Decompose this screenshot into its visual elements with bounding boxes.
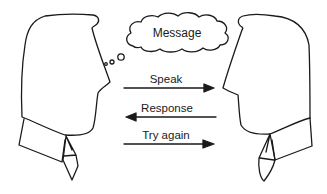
cloud-label: Message (153, 26, 202, 40)
speak-arrow (124, 84, 214, 92)
try-again-label: Try again (142, 129, 190, 141)
thought-dot-medium (110, 60, 114, 64)
left-person-figure (19, 14, 110, 180)
communication-diagram: Message Speak Response Try again (0, 0, 327, 194)
try-again-arrow (124, 140, 214, 148)
left-head-outline (21, 14, 110, 135)
right-head-outline (223, 15, 310, 135)
right-person-figure (223, 15, 312, 182)
arrowhead-left-icon (126, 113, 136, 121)
response-arrow (126, 113, 216, 121)
arrowhead-right-icon (204, 84, 214, 92)
thought-dot-large (118, 54, 124, 60)
left-tie (63, 136, 78, 180)
thought-dot-small (105, 63, 108, 66)
thought-bubbles (105, 54, 125, 66)
response-label: Response (141, 102, 193, 114)
speak-label: Speak (150, 73, 183, 85)
arrowhead-right-icon (203, 140, 214, 148)
